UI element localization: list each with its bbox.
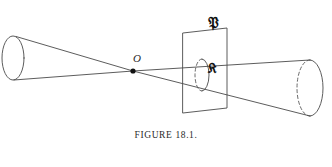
right-cone-base-ellipse-hidden [297,60,310,116]
right-nappe-group [133,60,323,116]
cutting-plane-group [183,28,227,113]
left-cone-base-ellipse [2,36,24,80]
vertex-point-dot [130,68,135,73]
vertex-label: O [133,52,141,64]
left-nappe-group [2,36,133,80]
plane-label: 𝔓 [208,14,219,32]
conic-section-group [195,59,209,91]
left-cone-lower-edge [14,71,133,80]
conic-label: 𝔎 [207,61,217,76]
cutting-plane-parallelogram [183,28,227,113]
figure-caption: FIGURE 18.1. [0,130,332,140]
right-cone-base-ellipse-visible [310,60,323,116]
figure-container: O 𝔓 𝔎 FIGURE 18.1. [0,0,332,167]
left-cone-upper-edge [16,37,133,72]
double-cone-diagram: O 𝔓 𝔎 [0,0,332,167]
right-cone-lower-edge [133,71,310,116]
conic-section-ellipse-left [195,59,202,91]
right-cone-upper-edge [133,60,310,71]
